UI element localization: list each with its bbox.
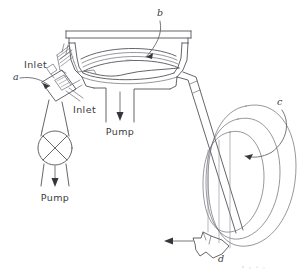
chamber-wall-left — [75, 43, 83, 73]
vacuum-chamber — [66, 31, 191, 89]
scan-artifacts — [242, 266, 264, 268]
label-a: a — [13, 71, 19, 82]
label-c: c — [277, 96, 283, 107]
inlet-valve-block — [42, 64, 82, 101]
outlet-arrow — [164, 238, 193, 245]
chamber-floor-inner — [82, 77, 177, 84]
inlet-label-upper: Inlet — [24, 59, 47, 70]
apparatus-diagram: Pump — [0, 0, 305, 274]
pump-label-center: Pump — [106, 126, 134, 137]
pump-arrow-left — [52, 166, 59, 187]
pump-label-left: Pump — [41, 192, 69, 203]
cross-valve — [38, 131, 72, 165]
chamber-wall-right-inner — [177, 43, 188, 77]
pump-arrow-center — [117, 92, 124, 121]
inlet-valve-assembly: Inlet Inlet a — [13, 44, 96, 115]
center-pump-duct: Pump — [94, 88, 170, 137]
chamber-top-flange — [66, 31, 191, 43]
figure-canvas: Pump — [0, 0, 305, 274]
chamber-skirt-left — [82, 77, 94, 88]
callout-c: c — [245, 96, 287, 160]
left-pump-line: Pump — [38, 100, 72, 203]
inlet-label-lower: Inlet — [73, 104, 96, 115]
chamber-lens-element — [81, 48, 179, 76]
callout-a: a — [13, 71, 50, 89]
label-b: b — [157, 7, 163, 18]
label-d: d — [218, 253, 224, 264]
